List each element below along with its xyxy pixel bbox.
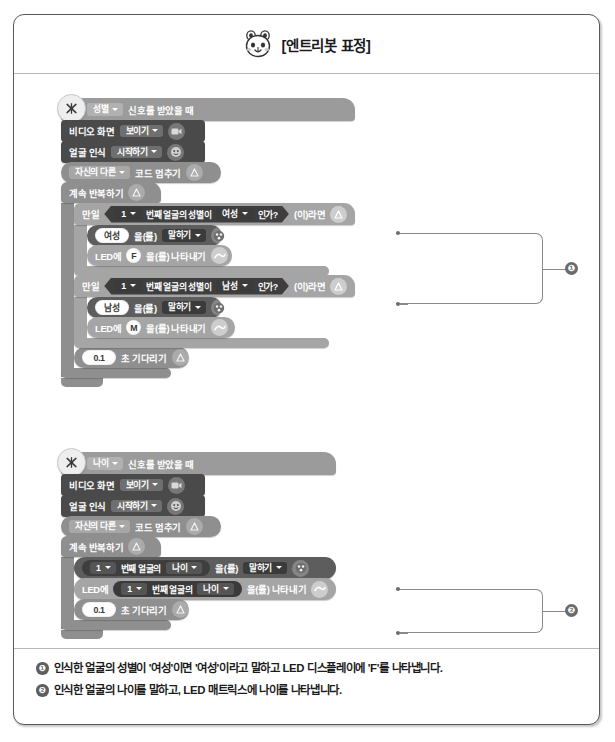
repeat-body: 1 번째 얼굴의 나이 을(를) 말하기 — [61, 557, 336, 620]
dropdown-signal-name[interactable]: 성별 — [87, 103, 123, 116]
figure-header: [엔트리봇 표정] — [14, 15, 599, 73]
dropdown-face-attribute[interactable]: 나이 — [166, 562, 202, 575]
callout-leader-2a — [400, 589, 408, 590]
block-repeat-forever[interactable]: 계속 반복하기 만일 — [61, 182, 355, 387]
dropdown-video-state[interactable]: 보이기 — [120, 479, 164, 492]
chevron-down-icon — [130, 284, 136, 287]
dropdown-stop-target[interactable]: 자신의 다른 — [69, 520, 130, 533]
block-if-female[interactable]: 만일 1 번째 얼굴의 성별이 여성 — [74, 203, 355, 276]
dropdown-face-action[interactable]: 시작하기 — [111, 500, 163, 513]
block-say-female[interactable]: 여성 을(를) 말하기 — [87, 225, 222, 246]
if-footer — [74, 338, 329, 348]
block-label: 비디오 화면 — [69, 124, 115, 138]
led-text-input[interactable]: M — [126, 320, 141, 335]
dropdown-face-index[interactable]: 1 — [121, 583, 147, 596]
block-stop-code[interactable]: 자신의 다른 코드 멈추기 — [61, 162, 221, 183]
flow-icon — [186, 518, 203, 535]
block-label-prefix: LED에 — [82, 582, 108, 596]
chevron-down-icon — [151, 504, 157, 507]
say-text-input[interactable]: 남성 — [95, 300, 129, 315]
callout-leader-1-out — [543, 269, 566, 270]
chevron-down-icon — [112, 462, 118, 465]
block-wait-seconds[interactable]: 0.1 초 기다리기 — [74, 599, 189, 620]
script-age: 나이 신호를 받았을 때 비디오 화면 보이기 — [61, 452, 336, 639]
condition-mid-label: 번째 얼굴의 성별이 — [146, 280, 211, 293]
repeat-footer — [61, 368, 171, 378]
say-text-input[interactable]: 여성 — [95, 228, 129, 243]
chevron-down-icon — [151, 150, 157, 153]
block-when-signal-received[interactable]: 나이 신호를 받았을 때 — [61, 452, 336, 475]
flow-icon — [128, 538, 145, 555]
block-stop-code[interactable]: 자신의 다른 코드 멈추기 — [61, 516, 221, 537]
block-led-display-age[interactable]: LED에 1 번째 얼굴의 나이 을(를) — [74, 578, 336, 600]
script-tail — [61, 378, 103, 387]
dropdown-face-attribute[interactable]: 나이 — [197, 583, 233, 596]
block-label: 만일 — [82, 279, 99, 293]
block-video-show[interactable]: 비디오 화면 보이기 — [61, 120, 205, 142]
condition-tail-label: 인가? — [258, 208, 278, 221]
block-label: 초 기다리기 — [121, 351, 167, 365]
caption-number: ❷ — [36, 684, 49, 697]
block-led-display-f[interactable]: LED에 F 을(를) 나타내기 — [87, 245, 232, 266]
dropdown-stop-target[interactable]: 자신의 다른 — [69, 166, 130, 179]
block-face-recognition[interactable]: 얼굴 인식 시작하기 — [61, 495, 205, 517]
dropdown-say-mode[interactable]: 말하기 — [162, 301, 206, 314]
dropdown-face-action[interactable]: 시작하기 — [111, 146, 163, 159]
block-video-show[interactable]: 비디오 화면 보이기 — [61, 474, 205, 496]
if-header[interactable]: 만일 1 번째 얼굴의 성별이 남성 — [74, 275, 355, 297]
block-label-prefix: LED에 — [95, 321, 121, 335]
dropdown-face-index[interactable]: 1 — [115, 280, 141, 293]
if-body: 남성 을(를) 말하기 — [74, 297, 355, 338]
block-say-male[interactable]: 남성 을(를) 말하기 — [87, 297, 222, 318]
dropdown-video-state[interactable]: 보이기 — [120, 125, 164, 138]
block-label: 계속 반복하기 — [69, 186, 123, 200]
flow-icon — [172, 349, 189, 366]
flow-icon — [172, 601, 189, 618]
if-header[interactable]: 만일 1 번째 얼굴의 성별이 여성 — [74, 203, 355, 225]
block-label: 얼굴 인식 — [69, 499, 106, 513]
block-label: 비디오 화면 — [69, 478, 115, 492]
block-face-recognition[interactable]: 얼굴 인식 시작하기 — [61, 141, 205, 163]
wait-seconds-input[interactable]: 0.1 — [82, 602, 116, 617]
block-label: 얼굴 인식 — [69, 145, 106, 159]
block-label: 만일 — [82, 207, 99, 221]
block-say-age[interactable]: 1 번째 얼굴의 나이 을(를) 말하기 — [74, 557, 336, 579]
face-icon — [167, 498, 184, 515]
condition-tail-label: 인가? — [258, 280, 278, 293]
dropdown-gender-value[interactable]: 남성 — [216, 280, 252, 293]
callout-leader-1b — [400, 304, 408, 305]
dropdown-signal-name[interactable]: 나이 — [87, 457, 123, 470]
dropdown-say-mode[interactable]: 말하기 — [243, 562, 287, 575]
entrybot-icon — [292, 560, 309, 577]
block-led-display-m[interactable]: LED에 M 을(를) 나타내기 — [87, 317, 235, 338]
block-label-suffix: (이)라면 — [294, 279, 326, 293]
block-repeat-forever[interactable]: 계속 반복하기 1 — [61, 536, 336, 639]
reporter-mid-label: 번째 얼굴의 — [152, 583, 192, 596]
wait-seconds-input[interactable]: 0.1 — [82, 350, 116, 365]
reporter-face-age[interactable]: 1 번째 얼굴의 나이 — [113, 581, 241, 597]
callout-leader-1a — [400, 233, 408, 234]
chevron-down-icon — [191, 566, 197, 569]
dropdown-say-mode[interactable]: 말하기 — [162, 229, 206, 242]
flow-icon — [128, 184, 145, 201]
block-when-signal-received[interactable]: 성별 신호를 받았을 때 — [61, 98, 355, 121]
led-icon — [311, 581, 328, 598]
led-text-input[interactable]: F — [126, 248, 141, 263]
callout-number-2: ❷ — [565, 604, 578, 617]
reporter-face-age[interactable]: 1 번째 얼굴의 나이 — [82, 560, 210, 576]
condition-face-gender[interactable]: 1 번째 얼굴의 성별이 여성 인가? — [104, 206, 289, 223]
chevron-down-icon — [223, 587, 229, 590]
flow-icon — [186, 164, 203, 181]
block-label: 코드 멈추기 — [135, 520, 181, 534]
condition-face-gender[interactable]: 1 번째 얼굴의 성별이 남성 인가? — [104, 278, 289, 295]
repeat-header[interactable]: 계속 반복하기 — [61, 182, 161, 203]
callout-bracket-1 — [396, 233, 543, 304]
block-wait-seconds[interactable]: 0.1 초 기다리기 — [74, 347, 189, 368]
chevron-down-icon — [242, 284, 248, 287]
dropdown-gender-value[interactable]: 여성 — [216, 208, 252, 221]
block-if-male[interactable]: 만일 1 번째 얼굴의 성별이 남성 — [74, 275, 355, 348]
figure-frame: [엔트리봇 표정] 성별 신호를 받았을 때 — [13, 14, 600, 725]
dropdown-face-index[interactable]: 1 — [115, 208, 141, 221]
dropdown-face-index[interactable]: 1 — [90, 562, 116, 575]
repeat-header[interactable]: 계속 반복하기 — [61, 536, 161, 557]
